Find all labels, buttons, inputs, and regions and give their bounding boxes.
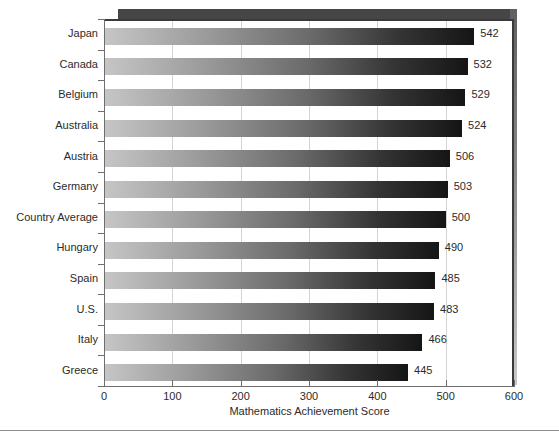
bar-value-label: 445 bbox=[414, 364, 432, 376]
bar-value-label: 524 bbox=[468, 119, 486, 131]
x-axis-tick-label: 400 bbox=[368, 390, 386, 402]
page-divider-rule bbox=[0, 430, 559, 431]
y-axis-tick bbox=[98, 294, 105, 295]
category-label: Spain bbox=[70, 272, 98, 284]
bar bbox=[104, 272, 435, 289]
y-axis-tick bbox=[98, 264, 105, 265]
bar bbox=[104, 242, 439, 259]
category-label: Germany bbox=[53, 180, 98, 192]
bar-value-label: 485 bbox=[441, 272, 459, 284]
bar-value-label: 506 bbox=[456, 150, 474, 162]
x-axis-tick bbox=[309, 380, 310, 387]
bar-value-label: 503 bbox=[454, 180, 472, 192]
category-label: Australia bbox=[55, 119, 98, 131]
bar-value-label: 542 bbox=[480, 27, 498, 39]
bar-value-label: 532 bbox=[474, 58, 492, 70]
x-axis-tick-label: 500 bbox=[436, 390, 454, 402]
y-axis-tick bbox=[98, 80, 105, 81]
y-axis-tick bbox=[98, 172, 105, 173]
y-axis-tick bbox=[98, 355, 105, 356]
plot-area bbox=[104, 19, 514, 386]
x-axis-tick bbox=[104, 380, 105, 387]
x-axis-tick-label: 200 bbox=[231, 390, 249, 402]
bar bbox=[104, 150, 450, 167]
y-axis-tick bbox=[98, 19, 105, 20]
gridline bbox=[172, 21, 173, 386]
bar-value-label: 490 bbox=[445, 241, 463, 253]
category-label: Hungary bbox=[56, 241, 98, 253]
x-axis-tick-label: 600 bbox=[505, 390, 523, 402]
bar bbox=[104, 89, 465, 106]
category-label: Belgium bbox=[58, 88, 98, 100]
bar bbox=[104, 303, 434, 320]
bar bbox=[104, 28, 474, 45]
x-axis-tick bbox=[377, 380, 378, 387]
bar-value-label: 500 bbox=[452, 211, 470, 223]
bar-value-label: 466 bbox=[428, 333, 446, 345]
x-axis-tick bbox=[172, 380, 173, 387]
gridline bbox=[309, 21, 310, 386]
category-label: Greece bbox=[62, 364, 98, 376]
gridline bbox=[446, 21, 447, 386]
bar bbox=[104, 211, 446, 228]
x-axis-tick bbox=[446, 380, 447, 387]
x-axis-tick-label: 100 bbox=[163, 390, 181, 402]
x-axis-tick bbox=[514, 380, 515, 387]
category-label: Country Average bbox=[16, 211, 98, 223]
x-axis-tick bbox=[241, 380, 242, 387]
x-axis-tick-label: 0 bbox=[101, 390, 107, 402]
y-axis-tick bbox=[98, 50, 105, 51]
y-axis-tick bbox=[98, 325, 105, 326]
gridline bbox=[241, 21, 242, 386]
x-axis-tick-label: 300 bbox=[300, 390, 318, 402]
category-label: Canada bbox=[59, 58, 98, 70]
category-label: Japan bbox=[68, 27, 98, 39]
y-axis-tick bbox=[98, 141, 105, 142]
bar bbox=[104, 58, 468, 75]
y-axis-tick bbox=[98, 111, 105, 112]
category-label: Austria bbox=[64, 150, 98, 162]
x-axis-title: Mathematics Achievement Score bbox=[104, 405, 515, 417]
bar bbox=[104, 181, 448, 198]
bar-value-label: 483 bbox=[440, 303, 458, 315]
category-label: U.S. bbox=[77, 303, 98, 315]
bar bbox=[104, 120, 462, 137]
y-axis-tick bbox=[98, 203, 105, 204]
category-label: Italy bbox=[78, 333, 98, 345]
y-axis-tick bbox=[98, 233, 105, 234]
bar bbox=[104, 334, 422, 351]
bar bbox=[104, 364, 408, 381]
bar-chart: JapanCanadaBelgiumAustraliaAustriaGerman… bbox=[0, 0, 559, 441]
bar-value-label: 529 bbox=[471, 88, 489, 100]
gridline bbox=[377, 21, 378, 386]
